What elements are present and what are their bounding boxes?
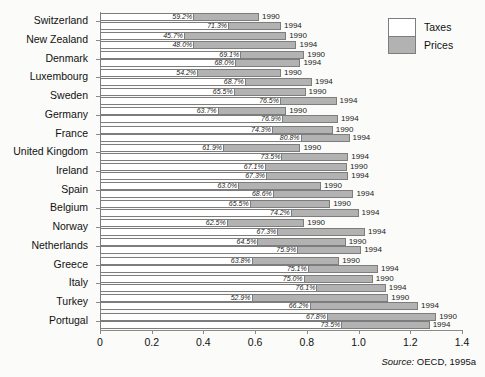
bar-row: 63.7%1990: [100, 107, 286, 115]
bar-year-label: 1990: [306, 87, 327, 96]
bar-row: 75.1%1994: [100, 265, 378, 273]
bar-year-label: 1990: [300, 143, 321, 152]
bar-value-label: 73.5%: [261, 152, 283, 161]
x-axis-tick: [255, 330, 256, 334]
bar-row: 66.2%1994: [100, 302, 418, 310]
bar-segment-prices: [252, 294, 389, 302]
legend-label-taxes: Taxes: [424, 18, 453, 36]
bar-year-label: 1994: [348, 171, 369, 180]
bar-row: 76.9%1994: [100, 115, 338, 123]
bar-row: 67.1%1990: [100, 163, 347, 171]
bar-value-label: 64.5%: [237, 237, 259, 246]
category-label: United Kingdom: [13, 146, 88, 157]
bar-value-label: 76.5%: [259, 96, 281, 105]
bar-segment-taxes: [100, 190, 274, 198]
bar-segment-prices: [228, 22, 281, 30]
bar-row: 65.5%1990: [100, 200, 330, 208]
bar-row: 68.0%1994: [100, 59, 300, 67]
bar-segment-prices: [308, 265, 378, 273]
bar-segment-taxes: [100, 265, 309, 273]
category-label: Norway: [52, 221, 88, 232]
bar-value-label: 59.2%: [172, 12, 194, 21]
x-axis-line: [100, 330, 462, 331]
bar-year-label: 1994: [338, 114, 359, 123]
legend-labels: Taxes Prices: [424, 18, 453, 54]
bar-value-label: 76.1%: [296, 283, 318, 292]
category-label: Luxembourg: [30, 71, 88, 82]
bar-year-label: 1990: [286, 106, 307, 115]
x-axis-tick-label: 1.4: [455, 336, 470, 348]
source-note: Source: OECD, 1995a: [381, 356, 476, 367]
category-label: Turkey: [56, 296, 88, 307]
bar-segment-taxes: [100, 313, 328, 321]
category-label: Netherlands: [31, 240, 88, 251]
bar-segment-taxes: [100, 238, 258, 246]
bar-row: 75.0%1990: [100, 275, 373, 283]
bar-row: 59.2%1990: [100, 13, 259, 21]
bar-value-label: 75.9%: [276, 245, 298, 254]
bar-segment-prices: [282, 115, 338, 123]
bar-year-label: 1994: [386, 283, 407, 292]
bar-year-label: 1990: [339, 256, 360, 265]
bar-segment-taxes: [100, 302, 311, 310]
x-axis-tick-label: 1.2: [403, 336, 418, 348]
x-axis-tick-label: 0: [97, 336, 103, 348]
bar-segment-prices: [240, 51, 304, 59]
bar-year-label: 1994: [378, 264, 399, 273]
bar-row: 71.3%1994: [100, 22, 281, 30]
bar-year-label: 1990: [388, 293, 409, 302]
x-axis-tick: [307, 330, 308, 334]
category-label: Switzerland: [34, 15, 88, 26]
bar-value-label: 67.3%: [245, 171, 267, 180]
bar-year-label: 1994: [312, 77, 333, 86]
x-axis-tick: [359, 330, 360, 334]
bar-segment-taxes: [100, 294, 253, 302]
bar-segment-prices: [238, 182, 321, 190]
bar-year-label: 1994: [350, 133, 371, 142]
bar-value-label: 66.2%: [289, 301, 311, 310]
bar-segment-prices: [281, 153, 348, 161]
bar-year-label: 1994: [361, 245, 382, 254]
bar-segment-prices: [316, 284, 385, 292]
bar-row: 48.0%1994: [100, 41, 297, 49]
bar-value-label: 65.5%: [229, 199, 251, 208]
bar-value-label: 65.5%: [213, 87, 235, 96]
bar-value-label: 63.8%: [231, 256, 253, 265]
bar-segment-prices: [301, 134, 350, 142]
bar-segment-taxes: [100, 115, 283, 123]
bar-segment-prices: [184, 32, 286, 40]
bar-row: 63.0%1990: [100, 182, 321, 190]
bar-row: 67.8%1990: [100, 313, 436, 321]
bar-segment-taxes: [100, 97, 281, 105]
bar-year-label: 1990: [304, 218, 325, 227]
bar-segment-taxes: [100, 163, 266, 171]
bar-segment-prices: [257, 238, 345, 246]
bar-segment-prices: [297, 246, 361, 254]
bar-segment-prices: [291, 209, 359, 217]
x-axis-tick: [100, 330, 101, 334]
bar-row: 73.5%1994: [100, 321, 430, 329]
category-label: France: [55, 128, 88, 139]
bar-segment-prices: [273, 190, 354, 198]
x-axis-tick-label: 0.2: [144, 336, 159, 348]
category-axis-labels: SwitzerlandNew ZealandDenmarkLuxembourgS…: [0, 12, 94, 330]
bar-row: 68.7%1994: [100, 78, 312, 86]
bar-segment-taxes: [100, 126, 273, 134]
bar-segment-taxes: [100, 228, 278, 236]
bar-segment-prices: [310, 302, 418, 310]
bar-year-label: 1994: [353, 189, 374, 198]
category-label: Sweden: [50, 90, 88, 101]
bar-segment-taxes: [100, 257, 253, 265]
source-prefix: Source:: [381, 356, 414, 367]
bar-segment-taxes: [100, 172, 267, 180]
bar-segment-prices: [265, 163, 347, 171]
bar-row: 75.9%1994: [100, 246, 361, 254]
bar-year-label: 1990: [321, 181, 342, 190]
bar-segment-taxes: [100, 209, 292, 217]
bar-value-label: 68.7%: [224, 77, 246, 86]
bar-year-label: 1994: [281, 21, 302, 30]
bar-segment-prices: [327, 313, 436, 321]
bar-value-label: 63.7%: [197, 106, 219, 115]
bar-row: 74.2%1994: [100, 209, 359, 217]
bar-year-label: 1994: [348, 152, 369, 161]
